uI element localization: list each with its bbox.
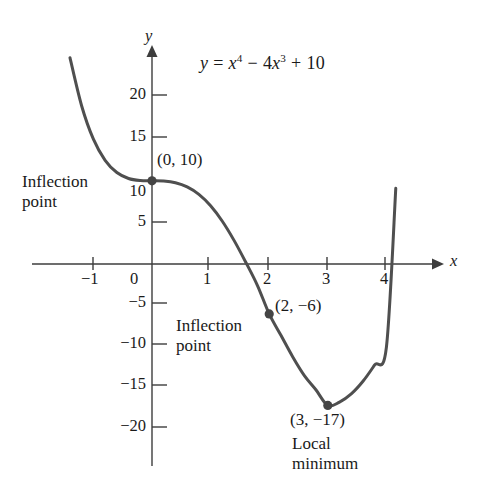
point-label-3-neg17: (3, −17): [290, 410, 345, 429]
equation-term2-exponent: 3: [280, 52, 286, 64]
plot-canvas: [0, 0, 490, 494]
equation-constant: 10: [306, 53, 324, 73]
y-axis-group: [147, 45, 158, 466]
y-tick-label--5: −5: [92, 293, 146, 311]
y-tick-label-5: 5: [98, 212, 146, 230]
x-axis-label: x: [450, 252, 457, 270]
equation-term2-coefficient: 4: [263, 53, 272, 73]
equation-term1-base: x: [229, 53, 237, 73]
y-axis-label: y: [145, 27, 152, 45]
note-line-1: Inflection: [22, 172, 88, 192]
equation-label: y=x4−4x3+10: [200, 53, 325, 73]
point-marker-inflection-2-neg6: [265, 309, 274, 318]
equation-plus: +: [291, 53, 301, 73]
note-inflection-point-middle: Inflection point: [176, 316, 242, 356]
x-tick-label-1: 1: [203, 270, 211, 288]
point-label-2-neg6: (2, −6): [275, 296, 321, 315]
equation-term1-exponent: 4: [237, 52, 243, 64]
y-axis-arrow-icon: [147, 45, 158, 57]
note-inflection-point-left: Inflection point: [22, 172, 88, 212]
y-tick-label-20: 20: [98, 85, 146, 103]
y-tick-label--20: −20: [92, 417, 146, 435]
figure-container: y x −1 0 1 2 3 4 20 15 10 5 −5 −10 −15 −…: [0, 0, 490, 494]
note-line-2: minimum: [292, 454, 358, 474]
note-line-1: Local: [292, 434, 358, 454]
note-line-1: Inflection: [176, 316, 242, 336]
point-marker-inflection-0-10: [147, 176, 156, 185]
y-tick-label-10: 10: [98, 182, 146, 200]
y-tick-marks: [152, 95, 167, 427]
x-tick-label-4: 4: [380, 270, 388, 288]
equation-equals: =: [213, 53, 223, 73]
x-tick-label-2: 2: [263, 270, 271, 288]
x-tick-label--1: −1: [81, 270, 99, 288]
note-line-2: point: [176, 336, 242, 356]
y-tick-label--10: −10: [92, 334, 146, 352]
x-tick-label-3: 3: [322, 270, 330, 288]
note-line-2: point: [22, 192, 88, 212]
x-axis-arrow-icon: [432, 259, 444, 270]
x-axis-group: [32, 259, 444, 270]
equation-minus: −: [248, 53, 258, 73]
y-tick-label-15: 15: [98, 127, 146, 145]
note-local-minimum: Local minimum: [292, 434, 358, 474]
y-tick-label--15: −15: [92, 375, 146, 393]
x-tick-label-0: 0: [130, 270, 138, 288]
point-label-0-10: (0, 10): [157, 150, 202, 169]
equation-lhs: y: [200, 53, 208, 73]
point-marker-local-minimum: [323, 401, 332, 410]
